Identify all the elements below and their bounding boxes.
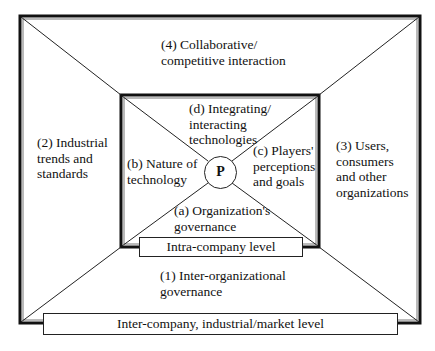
- segment-a-label: (a) Organization's governance: [174, 203, 270, 234]
- diagonal-outer-br: [319, 247, 419, 322]
- segment-d-label: (d) Integrating/ interacting technologie…: [189, 101, 271, 148]
- segment-b-label: (b) Nature of technology: [127, 156, 197, 187]
- diagonal-outer-bl: [21, 247, 121, 322]
- segment-c-label: (c) Players' perceptions and goals: [253, 143, 315, 190]
- intra-company-level-box: Intra-company level: [139, 237, 303, 257]
- segment-4-label: (4) Collaborative/ competitive interacti…: [161, 37, 286, 68]
- center-node-p: P: [204, 156, 237, 189]
- diagonal-outer-tr: [319, 17, 419, 95]
- diagonal-outer-tl: [21, 17, 121, 95]
- segment-1-label: (1) Inter-organizational governance: [160, 268, 286, 299]
- segment-2-label: (2) Industrial trends and standards: [37, 135, 108, 182]
- center-label: P: [216, 164, 225, 179]
- inter-company-level-box: Inter-company, industrial/market level: [43, 313, 398, 335]
- segment-3-label: (3) Users, consumers and other organizat…: [336, 138, 408, 200]
